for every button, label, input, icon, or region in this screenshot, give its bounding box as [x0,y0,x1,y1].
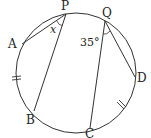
angle-arc-Q [103,31,110,34]
label-C: C [85,127,94,138]
angle-label-x: x [50,23,57,36]
angle-label-35: 35° [80,36,100,49]
circle-diagram: P Q A D B C x 35° [0,0,151,138]
label-P: P [61,0,69,13]
chord-PA [22,14,66,44]
label-B: B [26,113,35,127]
angle-arc-P [57,21,63,26]
label-A: A [7,37,17,51]
label-D: D [137,71,147,85]
label-Q: Q [102,6,112,20]
